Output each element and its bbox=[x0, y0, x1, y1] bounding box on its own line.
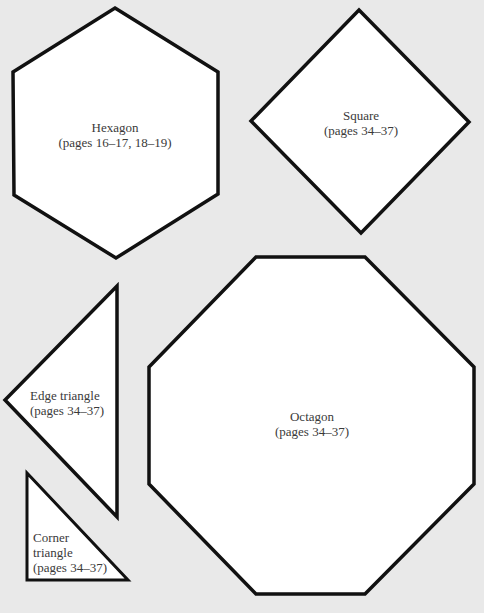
shapes-canvas bbox=[0, 0, 484, 613]
octagon-pages: (pages 34–37) bbox=[275, 424, 349, 439]
edge-triangle-pages: (pages 34–37) bbox=[30, 403, 104, 418]
corner-triangle-name-line2: triangle bbox=[33, 545, 107, 560]
square-label: Square (pages 34–37) bbox=[324, 108, 398, 138]
edge-triangle-label: Edge triangle (pages 34–37) bbox=[30, 388, 104, 418]
octagon-name: Octagon bbox=[275, 409, 349, 424]
edge-triangle-name: Edge triangle bbox=[30, 388, 104, 403]
hexagon-label: Hexagon (pages 16–17, 18–19) bbox=[58, 120, 171, 150]
octagon-label: Octagon (pages 34–37) bbox=[275, 409, 349, 439]
square-pages: (pages 34–37) bbox=[324, 123, 398, 138]
hexagon-pages: (pages 16–17, 18–19) bbox=[58, 135, 171, 150]
corner-triangle-name-line1: Corner bbox=[33, 530, 107, 545]
hexagon-name: Hexagon bbox=[58, 120, 171, 135]
corner-triangle-pages: (pages 34–37) bbox=[33, 560, 107, 575]
corner-triangle-label: Corner triangle (pages 34–37) bbox=[33, 530, 107, 575]
square-name: Square bbox=[324, 108, 398, 123]
